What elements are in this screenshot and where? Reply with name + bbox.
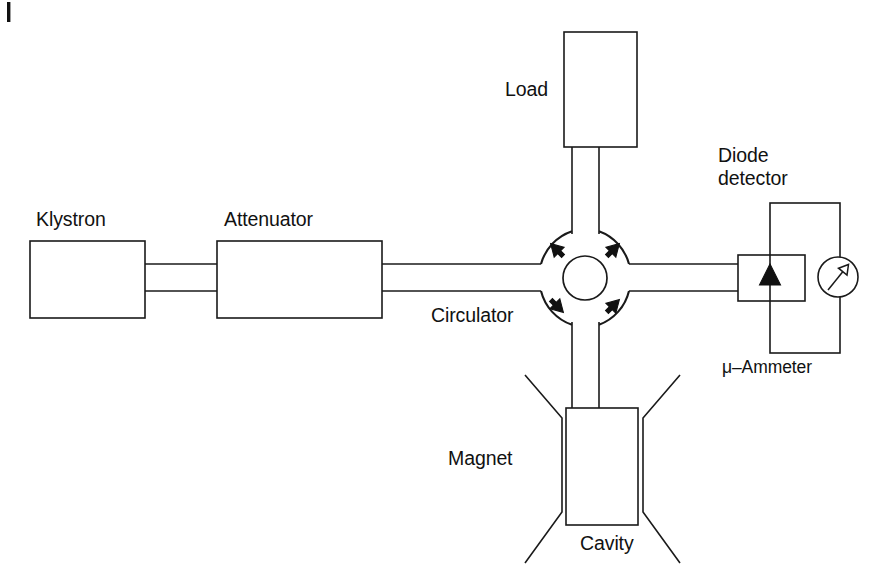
attenuator-box[interactable] xyxy=(217,241,382,318)
label-attenuator: Attenuator xyxy=(224,208,313,231)
label-load: Load xyxy=(505,78,548,101)
circulator-symbol[interactable] xyxy=(541,231,629,325)
label-klystron: Klystron xyxy=(36,208,106,231)
waveguide-attenuator-circulator xyxy=(382,264,541,291)
circulator-arrow-bottom-right xyxy=(602,295,624,317)
label-micro-ammeter: μ–Ammeter xyxy=(722,356,812,379)
circulator-inner-circle xyxy=(563,256,607,300)
label-circulator: Circulator xyxy=(431,304,513,327)
label-diode-detector: Diode detector xyxy=(718,144,788,190)
magnet-pole-left[interactable] xyxy=(525,375,562,563)
label-diode-line1: Diode xyxy=(718,144,788,167)
waveguide-circulator-load xyxy=(572,147,599,234)
circulator-arrow-top-right xyxy=(602,239,624,261)
klystron-box[interactable] xyxy=(30,241,145,318)
waveguide-klystron-attenuator xyxy=(145,264,217,291)
figure-root: Klystron Attenuator Load Circulator Diod… xyxy=(0,0,892,585)
cavity-box[interactable] xyxy=(566,408,638,525)
diagram-canvas xyxy=(0,0,892,585)
label-magnet: Magnet xyxy=(448,447,512,470)
page-corner-tick xyxy=(7,2,10,22)
label-diode-line2: detector xyxy=(718,167,788,190)
circulator-arrow-bottom-left xyxy=(546,295,568,317)
load-box[interactable] xyxy=(564,32,637,147)
label-cavity: Cavity xyxy=(580,532,634,555)
magnet-pole-right[interactable] xyxy=(643,375,680,563)
circulator-arrow-top-left xyxy=(546,239,568,261)
waveguide-circulator-cavity xyxy=(572,322,599,408)
waveguide-circulator-diode xyxy=(629,264,738,291)
